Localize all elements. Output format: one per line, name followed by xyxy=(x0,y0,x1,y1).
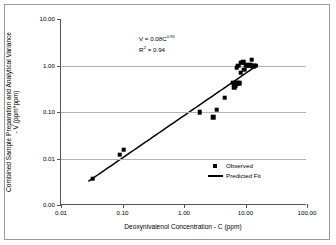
x-axis-tick-label: 0.01 xyxy=(55,210,67,216)
data-point-marker xyxy=(197,110,202,115)
data-point-marker xyxy=(122,147,127,152)
gridline xyxy=(61,112,306,113)
y-axis-tick xyxy=(57,159,61,160)
legend-label-observed: Observed xyxy=(226,161,253,171)
x-axis-tick xyxy=(184,204,185,208)
y-axis-title: Combined Sample Preparation and Analytic… xyxy=(5,19,19,205)
x-axis-title: Deoxynivalenol Concentration - C (ppm) xyxy=(60,223,306,231)
equation-annotation: V = 0.08C0.91 R2 = 0.94 xyxy=(139,32,175,54)
x-axis-tick-label: 0.10 xyxy=(116,210,128,216)
y-axis-tick xyxy=(57,66,61,67)
data-point-marker xyxy=(214,107,219,112)
equation-line: V = 0.08C0.91 xyxy=(139,32,175,43)
data-point-marker xyxy=(249,58,254,63)
x-axis-tick xyxy=(246,204,247,208)
data-point-marker xyxy=(211,115,216,120)
square-marker-icon xyxy=(204,164,226,168)
data-point-marker xyxy=(117,153,122,158)
r-squared-line: R2 = 0.94 xyxy=(139,43,175,54)
x-axis-tick-label: 100.00 xyxy=(298,210,317,216)
x-axis-tick-label: 1.00 xyxy=(178,210,190,216)
y-axis-tick-label: 0.01 xyxy=(43,155,55,161)
data-point-marker xyxy=(237,81,242,86)
legend-item-predicted-fit: Predicted Fit xyxy=(204,171,261,181)
x-axis-tick-label: 10.00 xyxy=(238,210,253,216)
line-swatch-icon xyxy=(204,175,226,177)
y-axis-title-line1: Combined Sample Preparation and Analytic… xyxy=(5,32,12,192)
y-axis-title-line2: - V (ppm*ppm) xyxy=(12,32,19,192)
y-axis-tick-label: 0.00 xyxy=(43,202,55,208)
y-axis-tick xyxy=(57,19,61,20)
chart-frame: Combined Sample Preparation and Analytic… xyxy=(4,4,330,240)
r-squared-value: = 0.94 xyxy=(146,46,165,53)
x-axis-tick xyxy=(123,204,124,208)
gridline xyxy=(61,66,306,67)
legend-item-observed: Observed xyxy=(204,161,261,171)
x-axis-tick xyxy=(307,204,308,208)
gridline xyxy=(61,159,306,160)
y-axis-tick-label: 0.10 xyxy=(43,109,55,115)
data-point-marker xyxy=(91,176,96,181)
data-point-marker xyxy=(222,95,227,100)
plot-area: 0.000.010.101.0010.00 0.010.101.0010.001… xyxy=(60,19,306,205)
y-axis-tick-label: 1.00 xyxy=(43,62,55,68)
y-axis-tick xyxy=(57,112,61,113)
equation-text: V = 0.08C xyxy=(139,35,167,42)
y-axis-tick-label: 10.00 xyxy=(40,16,55,22)
equation-exponent: 0.91 xyxy=(167,34,176,39)
x-axis-tick xyxy=(61,204,62,208)
legend-label-predicted-fit: Predicted Fit xyxy=(226,171,261,181)
chart-legend: Observed Predicted Fit xyxy=(204,161,261,181)
data-point-marker xyxy=(253,63,258,68)
